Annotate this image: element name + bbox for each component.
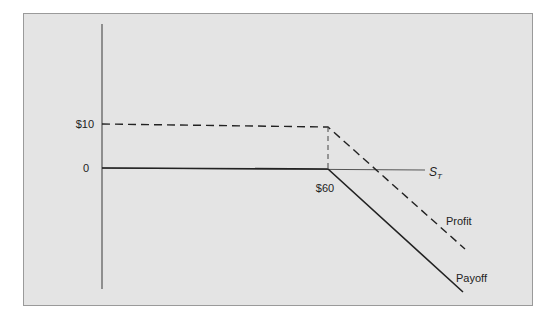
payoff-profit-chart: $10 0 $60 ST Profit Payoff [0, 0, 552, 321]
payoff-label: Payoff [456, 272, 488, 284]
x-tick-60: $60 [316, 182, 334, 194]
y-tick-10: $10 [76, 118, 94, 130]
y-tick-0: 0 [83, 162, 89, 174]
x-axis-label: ST [429, 165, 443, 181]
payoff-line [102, 168, 463, 292]
profit-line [102, 124, 465, 249]
profit-label: Profit [446, 215, 472, 227]
